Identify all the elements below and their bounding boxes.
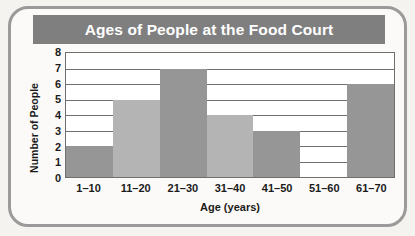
bar-slot: [253, 53, 300, 177]
x-axis-tick-label: 1–10: [65, 182, 112, 194]
bar: [66, 146, 113, 177]
y-axis-tick-label: 3: [55, 125, 61, 136]
x-axis-tick-label: 21–30: [159, 182, 206, 194]
y-axis-tick-label: 7: [55, 62, 61, 73]
y-axis-ticks: 012345678: [43, 52, 63, 178]
plot-area: [65, 52, 395, 178]
x-axis-tick-label: 31–40: [206, 182, 253, 194]
bar-slot: [207, 53, 254, 177]
y-axis-title-text: Number of People: [28, 83, 40, 173]
bar-slot: [66, 53, 113, 177]
x-axis-tick-labels: 1–1011–2021–3031–4041–5051–6061–70: [65, 182, 395, 194]
bar: [160, 69, 207, 178]
x-axis-tick-label: 11–20: [112, 182, 159, 194]
bar-slot: [300, 53, 347, 177]
y-axis-tick-label: 6: [55, 78, 61, 89]
bar: [347, 84, 394, 177]
bar-slot: [347, 53, 394, 177]
bar-slot: [160, 53, 207, 177]
chart-page: Ages of People at the Food Court Number …: [0, 0, 415, 236]
bar: [207, 115, 254, 177]
x-axis-tick-label: 61–70: [348, 182, 395, 194]
bar: [253, 131, 300, 178]
y-axis-tick-label: 5: [55, 94, 61, 105]
y-axis-tick-label: 0: [55, 173, 61, 184]
bar-slot: [113, 53, 160, 177]
y-axis-tick-label: 4: [55, 110, 61, 121]
chart-title: Ages of People at the Food Court: [85, 21, 334, 39]
y-axis-tick-label: 2: [55, 141, 61, 152]
y-axis-title: Number of People: [25, 68, 43, 188]
chart-body: Number of People 012345678 1–1011–2021–3…: [11, 44, 404, 224]
bar-series: [66, 53, 394, 177]
figure-frame: Ages of People at the Food Court Number …: [8, 6, 407, 227]
x-axis-tick-label: 51–60: [301, 182, 348, 194]
y-axis-tick-label: 1: [55, 157, 61, 168]
x-axis-tick-label: 41–50: [254, 182, 301, 194]
y-axis-tick-label: 8: [55, 47, 61, 58]
bar: [113, 100, 160, 178]
x-axis-title: Age (years): [65, 201, 395, 213]
chart-title-banner: Ages of People at the Food Court: [33, 15, 385, 44]
figure-inner: Ages of People at the Food Court Number …: [11, 9, 404, 224]
